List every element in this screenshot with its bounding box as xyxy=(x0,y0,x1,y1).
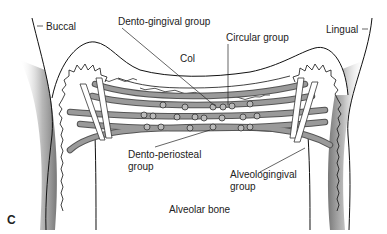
alveologingival-label-line2: group xyxy=(230,181,256,192)
lingual-bone-line xyxy=(308,135,310,230)
lingual-tooth-outline xyxy=(174,16,182,230)
circular-group-label: Circular group xyxy=(226,32,289,43)
buccal-bone-line xyxy=(95,135,96,230)
alveolar-bone-label: Alveolar bone xyxy=(169,204,230,215)
panel-label: C xyxy=(7,213,16,227)
dento-gingival-group-label: Dento-gingival group xyxy=(118,16,210,27)
buccal-label: Buccal xyxy=(46,21,76,32)
col-label: Col xyxy=(180,53,195,64)
lingual-label: Lingual xyxy=(326,24,358,35)
dento-periosteal-label-line2: group xyxy=(128,161,154,172)
alveologingival-label-line1: Alveologingival xyxy=(230,169,297,180)
lingual-tooth-outline-line xyxy=(348,18,372,230)
gingival-fiber-diagram: Buccal Dento-gingival group Circular gro… xyxy=(0,0,387,234)
buccal-tooth-shadow xyxy=(20,60,57,230)
diagram-drawing xyxy=(0,0,387,234)
dento-periosteal-label-line1: Dento-periosteal xyxy=(128,149,201,160)
